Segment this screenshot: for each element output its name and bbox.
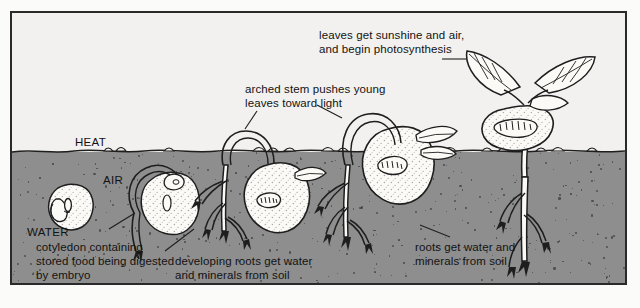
label-heat: HEAT: [75, 135, 106, 149]
annotation-cotyledon-line3: by embryo: [36, 269, 91, 283]
annotation-leaves-photosynthesis-line2: and begin photosynthesis: [319, 43, 452, 57]
annotation-leaves-photosynthesis-line1: leaves get sunshine and air,: [319, 29, 464, 43]
annotation-arched-stem-line2: leaves toward light: [245, 97, 342, 111]
annotation-cotyledon-line2: stored food being digested: [36, 255, 174, 269]
annotation-roots-water-line1: roots get water and: [415, 241, 515, 255]
annotation-cotyledon-line1: cotyledon containing: [36, 241, 143, 255]
stage-1-dormant-seed: [49, 184, 94, 230]
diagram-frame: HEAT AIR WATER leaves get sunshine and a…: [10, 11, 627, 285]
annotation-roots-water-line2: minerals from soil: [415, 255, 507, 269]
annotation-arched-stem-line1: arched stem pushes young: [245, 83, 385, 97]
annotation-developing-roots-line1: developing roots get water: [175, 255, 313, 269]
label-air: AIR: [103, 173, 123, 187]
stage-4-emerging: [314, 114, 457, 254]
label-water: WATER: [27, 225, 69, 239]
figure-canvas: HEAT AIR WATER leaves get sunshine and a…: [0, 0, 640, 308]
annotation-developing-roots-line2: and minerals from soil: [175, 269, 290, 283]
